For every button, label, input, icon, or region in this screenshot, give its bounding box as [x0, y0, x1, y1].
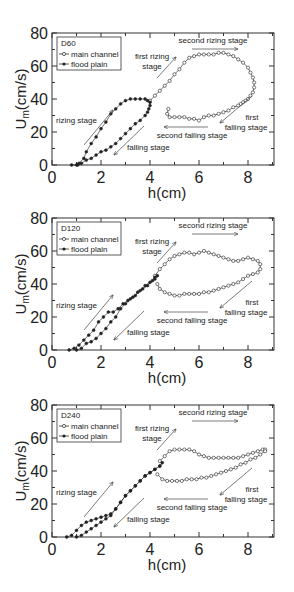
- second-falling-label: second falling stage: [157, 131, 228, 140]
- second-falling-label: second falling stage: [157, 503, 228, 512]
- first-falling-label: first: [246, 113, 260, 122]
- first-rizing-label: first rizing: [135, 52, 169, 61]
- x-axis-label: h(cm): [148, 184, 186, 201]
- first-falling-label: first: [246, 298, 260, 307]
- first-falling-label-2: falling stage: [225, 495, 268, 504]
- y-tick-label: 20: [30, 309, 48, 326]
- x-tick-label: 0: [48, 541, 57, 558]
- legend-flood-plain: flood plain: [71, 60, 107, 69]
- hysteresis-figure: 02040608002468h(cm)Um(cm/s)D60main chann…: [0, 0, 294, 592]
- legend-title: D120: [61, 224, 81, 233]
- legend-main-channel: main channel: [71, 235, 119, 244]
- chart-panel-d240: 02040608002468h(cm)Um(cm/s)D240main chan…: [12, 397, 274, 573]
- chart-panel-d60: 02040608002468h(cm)Um(cm/s)D60main chann…: [12, 25, 274, 201]
- y-tick-label: 40: [30, 276, 48, 293]
- chart-panel-d120: 02040608002468h(cm)Um(cm/s)D120main chan…: [12, 210, 274, 386]
- x-tick-label: 2: [97, 169, 106, 186]
- y-tick-label: 20: [30, 496, 48, 513]
- rizing-stage-label: rizing stage: [56, 116, 97, 125]
- falling-stage-label: falling stage: [127, 328, 170, 337]
- x-tick-label: 2: [97, 354, 106, 371]
- second-rizing-label: second rizing stage: [179, 221, 248, 230]
- second-rizing-label: second rizing stage: [179, 408, 248, 417]
- y-axis-label: Um(cm/s): [12, 69, 31, 130]
- legend-title: D60: [61, 39, 76, 48]
- x-axis-label: h(cm): [148, 556, 186, 573]
- legend-main-channel: main channel: [71, 422, 119, 431]
- rizing-stage-label: rizing stage: [56, 301, 97, 310]
- y-tick-label: 80: [30, 25, 48, 42]
- legend-main-channel: main channel: [71, 50, 119, 59]
- y-tick-label: 80: [30, 397, 48, 414]
- first-falling-label: first: [246, 485, 260, 494]
- first-rizing-label-2: stage: [142, 247, 162, 256]
- y-tick-label: 60: [30, 430, 48, 447]
- x-axis-label: h(cm): [148, 369, 186, 386]
- y-tick-label: 60: [30, 58, 48, 75]
- first-falling-label-2: falling stage: [225, 308, 268, 317]
- filled-circle-marker-icon: [62, 434, 65, 437]
- x-tick-label: 6: [195, 541, 204, 558]
- y-tick-label: 20: [30, 124, 48, 141]
- x-tick-label: 2: [97, 541, 106, 558]
- first-rizing-label-2: stage: [142, 62, 162, 71]
- legend: D120main channelflood plain: [57, 222, 121, 255]
- legend-title: D240: [61, 411, 81, 420]
- legend: D240main channelflood plain: [57, 409, 121, 442]
- first-rizing-label-2: stage: [142, 434, 162, 443]
- y-tick-label: 60: [30, 243, 48, 260]
- first-rizing-label: first rizing: [135, 237, 169, 246]
- second-rizing-label: second rizing stage: [179, 36, 248, 45]
- legend-flood-plain: flood plain: [71, 432, 107, 441]
- open-circle-marker-icon: [62, 52, 65, 55]
- first-falling-label-2: falling stage: [225, 123, 268, 132]
- first-rizing-label: first rizing: [135, 424, 169, 433]
- y-tick-label: 40: [30, 91, 48, 108]
- x-tick-label: 8: [244, 169, 253, 186]
- y-tick-label: 80: [30, 210, 48, 227]
- legend-flood-plain: flood plain: [71, 245, 107, 254]
- legend: D60main channelflood plain: [57, 37, 121, 70]
- falling-stage-label: falling stage: [127, 143, 170, 152]
- filled-circle-marker-icon: [62, 247, 65, 250]
- second-falling-label: second falling stage: [157, 316, 228, 325]
- y-axis-label: Um(cm/s): [12, 254, 31, 315]
- y-axis-label: Um(cm/s): [12, 441, 31, 502]
- falling-stage-label: falling stage: [127, 515, 170, 524]
- x-tick-label: 0: [48, 169, 57, 186]
- x-tick-label: 8: [244, 541, 253, 558]
- main-channel-line: [155, 251, 260, 296]
- open-circle-marker-icon: [62, 424, 65, 427]
- y-tick-label: 40: [30, 463, 48, 480]
- x-tick-label: 6: [195, 169, 204, 186]
- filled-circle-marker-icon: [62, 62, 65, 65]
- x-tick-label: 6: [195, 354, 204, 371]
- open-circle-marker-icon: [62, 237, 65, 240]
- rizing-stage-label: rizing stage: [56, 488, 97, 497]
- x-tick-label: 0: [48, 354, 57, 371]
- x-tick-label: 8: [244, 354, 253, 371]
